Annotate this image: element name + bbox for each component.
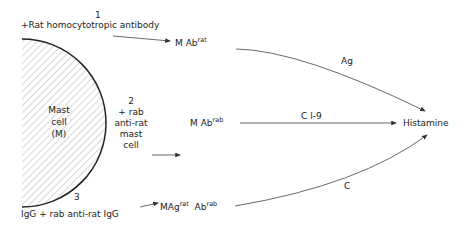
path2-reagent-line1: + rab xyxy=(108,107,154,118)
cell-label-line3: (M) xyxy=(44,128,74,140)
path2-product-sup: rab xyxy=(213,116,224,124)
cell-label-line2: cell xyxy=(44,116,74,128)
path2-reagent-line3: mast xyxy=(108,129,154,140)
path3-product-sup2: rab xyxy=(206,200,217,208)
arrow-3 xyxy=(140,203,158,207)
path2-product-base: M Ab xyxy=(190,118,213,128)
path2-product: M Abrab xyxy=(190,119,223,128)
path3-number: 3 xyxy=(74,193,80,202)
path3-product-base2: Ab xyxy=(195,202,207,212)
arrow-c xyxy=(235,135,427,206)
path1-product-sup: rat xyxy=(198,36,207,44)
cell-label-line1: Mast xyxy=(44,104,74,116)
histamine-label: Histamine xyxy=(403,119,449,128)
path3-product: MAgrat Abrab xyxy=(160,203,217,212)
path1-product: M Abrat xyxy=(175,39,207,48)
path3-product-base1: MAg xyxy=(160,202,180,212)
arrow-1 xyxy=(113,36,170,41)
path2-reagent-line4: cell xyxy=(108,140,154,151)
path2-reagent-line2: anti-rat xyxy=(108,118,154,129)
path3-reagent: IgG + rab anti-rat IgG xyxy=(21,210,119,219)
path2-number: 2 xyxy=(108,96,154,107)
path1-trigger: Ag xyxy=(341,57,353,66)
path1-product-base: M Ab xyxy=(175,38,198,48)
path1-reagent: +Rat homocytotropic antibody xyxy=(21,21,159,30)
cell-label: Mast cell (M) xyxy=(44,104,74,140)
arrow-ag xyxy=(236,49,425,111)
path1-number: 1 xyxy=(95,11,101,20)
path2-trigger: C l-9 xyxy=(301,112,322,121)
path2-reagent: 2 + rab anti-rat mast cell xyxy=(108,96,154,151)
path3-trigger: C xyxy=(344,182,350,191)
path3-product-sup1: rat xyxy=(180,200,189,208)
